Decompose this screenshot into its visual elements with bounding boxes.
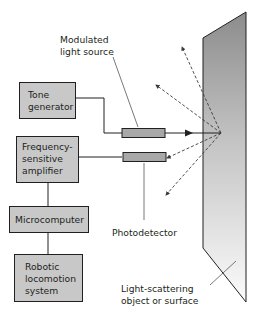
surface-callout-1: Light-scattering [121,283,194,294]
robotic-locomotion-label-2: locomotion [25,273,76,284]
light-scattering-surface [203,12,246,302]
modulated-light-source [122,129,165,138]
robotic-locomotion-label-3: system [25,285,58,296]
tone-generator-label-2: generator [28,101,74,112]
beam-arrowhead-icon [185,130,193,137]
photodetector-callout: Photodetector [112,227,177,238]
light-source-callout-1: Modulated [60,34,108,45]
frequency-amplifier-label-2: sensitive [22,153,63,164]
frequency-amplifier-label-1: Frequency- [22,141,73,152]
light-source-callout-2: light source [60,46,114,57]
tone-generator-label-1: Tone [27,89,49,100]
frequency-amplifier-block: Frequency- sensitive amplifier [17,137,79,183]
tone-generator-block: Tone generator [20,83,76,119]
robot-sensor-diagram: Tone generator Frequency- sensitive ampl… [0,0,261,322]
photodetector [123,153,166,162]
robotic-locomotion-block: Robotic locomotion system [15,255,83,302]
surface-callout-2: object or surface [121,295,199,306]
microcomputer-block: Microcomputer [10,207,89,233]
frequency-amplifier-label-3: amplifier [22,165,63,176]
robotic-locomotion-label-1: Robotic [25,261,59,272]
microcomputer-label: Microcomputer [15,214,84,225]
